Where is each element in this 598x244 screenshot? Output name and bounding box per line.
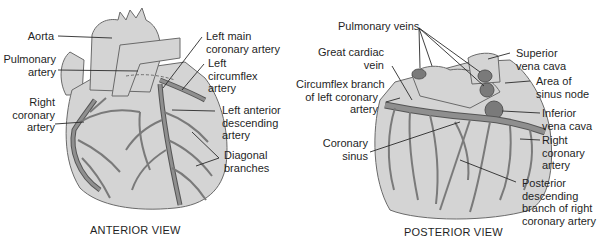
- label-line: coronary: [542, 147, 585, 160]
- label-line: artery: [2, 66, 56, 79]
- label-line: descending: [222, 117, 281, 130]
- label-line: branch of right: [522, 202, 596, 215]
- label-left-circumflex-artery: Left circumflex artery: [208, 57, 258, 95]
- label-line: descending: [522, 190, 596, 203]
- label-line: artery: [222, 129, 281, 142]
- label-line: Diagonal: [224, 149, 269, 162]
- label-right-coronary-artery-anterior: Right coronary artery: [2, 96, 55, 134]
- label-line: Left anterior: [222, 104, 281, 117]
- label-line: coronary artery: [206, 43, 280, 56]
- label-diagonal-branches: Diagonal branches: [224, 149, 269, 174]
- label-line: Pulmonary: [2, 53, 56, 66]
- anterior-heart: [61, 8, 227, 209]
- label-left-anterior-descending-artery: Left anterior descending artery: [222, 104, 281, 142]
- label-line: of left coronary: [296, 91, 378, 104]
- label-line: Posterior: [522, 177, 596, 190]
- label-pulmonary-artery: Pulmonary artery: [2, 53, 56, 78]
- label-coronary-sinus: Coronary sinus: [310, 137, 368, 162]
- label-line: vena cava: [516, 60, 566, 73]
- label-line: circumflex: [208, 70, 258, 83]
- caption-posterior-view: POSTERIOR VIEW: [404, 226, 503, 238]
- label-line: Circumflex branch: [296, 78, 378, 91]
- label-line: coronary: [2, 109, 55, 122]
- label-circumflex-branch-left-coronary-artery: Circumflex branch of left coronary arter…: [296, 78, 378, 116]
- label-line: Area of: [536, 75, 589, 88]
- label-text: Aorta: [28, 30, 54, 42]
- label-aorta: Aorta: [14, 30, 54, 43]
- label-line: sinus node: [536, 88, 589, 101]
- label-line: Coronary: [310, 137, 368, 150]
- heart-illustration: [0, 0, 598, 244]
- label-pulmonary-veins: Pulmonary veins: [338, 20, 419, 33]
- label-text: Pulmonary veins: [338, 20, 419, 32]
- label-line: Superior: [516, 47, 566, 60]
- label-line: Left main: [206, 30, 280, 43]
- caption-anterior-view: ANTERIOR VIEW: [90, 224, 181, 236]
- label-area-of-sinus-node: Area of sinus node: [536, 75, 589, 100]
- label-line: branches: [224, 162, 269, 175]
- label-right-coronary-artery-posterior: Right coronary artery: [542, 134, 585, 172]
- label-line: Right: [542, 134, 585, 147]
- label-line: vena cava: [542, 120, 592, 133]
- label-line: artery: [542, 159, 585, 172]
- label-line: Inferior: [542, 107, 592, 120]
- label-line: artery: [208, 82, 258, 95]
- label-line: artery: [296, 103, 378, 116]
- label-great-cardiac-vein: Great cardiac vein: [310, 46, 384, 71]
- label-line: Right: [2, 96, 55, 109]
- label-superior-vena-cava: Superior vena cava: [516, 47, 566, 72]
- label-inferior-vena-cava: Inferior vena cava: [542, 107, 592, 132]
- label-line: sinus: [310, 150, 368, 163]
- label-line: vein: [310, 59, 384, 72]
- label-line: Great cardiac: [310, 46, 384, 59]
- label-left-main-coronary-artery: Left main coronary artery: [206, 30, 280, 55]
- label-line: coronary artery: [522, 215, 596, 228]
- label-line: artery: [2, 121, 55, 134]
- label-line: Left: [208, 57, 258, 70]
- label-posterior-descending-branch: Posterior descending branch of right cor…: [522, 177, 596, 227]
